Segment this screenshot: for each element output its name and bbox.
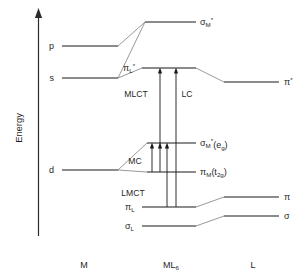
pi-L-star-sup: * xyxy=(133,62,136,69)
column-label-complex: ML6 xyxy=(163,260,180,271)
pi-star-ligand-sup: * xyxy=(290,76,293,83)
ligand-levels xyxy=(224,82,279,216)
pi-M-t2g-paren-end: ) xyxy=(224,167,227,177)
svg-text:πM(t2g): πM(t2g) xyxy=(200,167,227,178)
transition-arrow-MLCT xyxy=(158,68,162,173)
level-label-sigma-M-star: σM* xyxy=(200,16,214,28)
transition-arrow-MC xyxy=(150,143,154,173)
level-label-pi-star-ligand: π* xyxy=(284,76,293,87)
level-label-s: s xyxy=(50,73,55,83)
corr-piL-to-pi xyxy=(196,197,224,207)
transition-arrow-LMCT xyxy=(165,143,169,208)
corr-sigmaL-to-sigma xyxy=(196,216,224,226)
column-label-complex-main: ML xyxy=(163,260,176,270)
level-label-pi-L: πL xyxy=(125,202,135,213)
corr-p-to-sigmaMstar xyxy=(118,22,145,46)
level-label-d: d xyxy=(49,165,54,175)
level-label-pi-M-t2g: πM(t2g) xyxy=(200,167,227,178)
corr-d-to-piM-t2g xyxy=(118,170,147,172)
column-label-metal: M xyxy=(80,260,88,270)
diagram-canvas: Energy p s d xyxy=(0,0,308,279)
corr-piLstar-to-pistar xyxy=(196,68,224,82)
transition-arrow-LC xyxy=(174,68,178,208)
metal-levels xyxy=(62,46,118,170)
energy-axis xyxy=(35,8,42,236)
svg-text:σL: σL xyxy=(125,221,135,232)
sigma-M-star-eg-paren-end: ) xyxy=(225,140,228,150)
level-label-pi-L-star: πL* xyxy=(123,62,136,74)
transition-label-MLCT: MLCT xyxy=(124,89,148,99)
transition-arrows xyxy=(150,68,178,208)
svg-text:σM*(eg): σM*(eg) xyxy=(200,137,228,152)
level-label-sigma-M-star-eg: σM*(eg) xyxy=(200,137,228,152)
sigma-L-sub: L xyxy=(131,225,135,232)
svg-text:πL*: πL* xyxy=(123,62,136,74)
svg-text:ML6: ML6 xyxy=(163,260,180,271)
level-label-sigma-L: σL xyxy=(125,221,135,232)
level-label-pi-ligand: π xyxy=(284,192,290,202)
sigma-M-star-sup: * xyxy=(211,16,214,23)
svg-text:π*: π* xyxy=(284,76,293,87)
transition-label-MC: MC xyxy=(128,156,141,166)
sigma-M-star-eg-paren: (e xyxy=(213,140,221,150)
energy-level-diagram: Energy p s d xyxy=(0,0,308,279)
transition-label-LC: LC xyxy=(182,89,193,99)
level-label-p: p xyxy=(49,41,54,51)
energy-axis-arrowhead xyxy=(35,8,42,18)
complex-levels xyxy=(142,22,196,226)
column-label-ligand: L xyxy=(250,260,255,270)
column-label-complex-sub: 6 xyxy=(176,264,180,271)
svg-text:σM*: σM* xyxy=(200,16,214,28)
energy-axis-label: Energy xyxy=(13,113,24,143)
svg-text:πL: πL xyxy=(125,202,135,213)
pi-L-sub: L xyxy=(131,206,135,213)
level-label-sigma-ligand: σ xyxy=(284,211,290,221)
transition-label-LMCT: LMCT xyxy=(121,188,145,198)
